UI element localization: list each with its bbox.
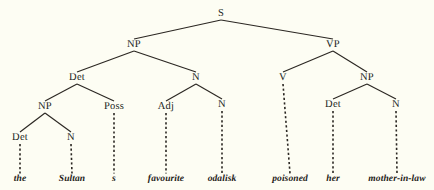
branch-n4-to-w-sultan [71, 144, 72, 174]
branch-s-to-vp [221, 20, 333, 39]
tree-node-v: V [279, 73, 287, 84]
branch-vp-to-np3 [333, 51, 367, 72]
branch-n3-to-w-mil [396, 111, 397, 174]
branch-n1-to-n2 [196, 84, 222, 99]
tree-terminal-w-poisoned: poisoned [272, 175, 308, 185]
tree-terminal-w-s: s [112, 175, 116, 185]
syntax-tree-diagram: SNPVPDetNVNPNPPossAdjNDetNDetNtheSultans… [0, 0, 434, 190]
branch-np1-to-det1 [77, 51, 134, 72]
branch-det1-to-np2 [45, 84, 77, 101]
tree-terminal-w-mil: mother-in-law [368, 175, 425, 185]
tree-node-np1: NP [127, 40, 141, 51]
tree-node-det1: Det [69, 73, 85, 84]
tree-node-n2: N [218, 100, 226, 111]
tree-node-det2: Det [12, 133, 28, 144]
branch-s-to-np1 [134, 20, 221, 39]
branch-np2-to-n4 [45, 113, 71, 132]
tree-terminal-w-her: her [326, 175, 340, 185]
tree-node-poss: Poss [104, 102, 124, 113]
tree-branch-lines [0, 0, 434, 190]
branch-v-to-w-poisoned [283, 84, 290, 174]
tree-node-np3: NP [360, 73, 374, 84]
tree-node-adj: Adj [158, 102, 174, 113]
tree-terminal-w-odalisk: odalisk [208, 175, 237, 185]
tree-node-det3: Det [325, 100, 341, 111]
tree-node-s: S [218, 9, 224, 20]
tree-node-n3: N [392, 100, 400, 111]
branch-vp-to-v [283, 51, 333, 72]
branch-np3-to-n3 [367, 84, 396, 99]
tree-terminal-w-fav: favourite [148, 175, 184, 185]
tree-node-vp: VP [326, 40, 340, 51]
tree-node-n1: N [192, 73, 200, 84]
branch-n1-to-adj [166, 84, 196, 101]
branch-np2-to-det2 [20, 113, 45, 132]
tree-terminal-w-the: the [14, 175, 26, 185]
branch-det1-to-poss [77, 84, 114, 101]
tree-node-n4: N [67, 133, 75, 144]
tree-terminal-w-sultan: Sultan [59, 175, 85, 185]
branch-np3-to-det3 [333, 84, 367, 99]
tree-node-np2: NP [38, 102, 52, 113]
branch-np1-to-n1 [134, 51, 196, 72]
